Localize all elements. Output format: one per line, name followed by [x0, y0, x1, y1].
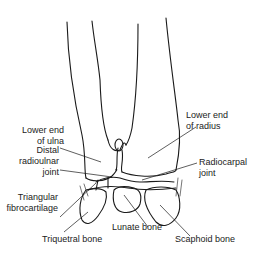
label-line: fibrocartilage	[0, 203, 58, 214]
label-line: Lower end	[186, 110, 228, 121]
label-distal-radioulnar-joint: Distal radioulnar joint	[14, 145, 59, 178]
label-line: Triangular	[0, 192, 58, 203]
label-line: joint	[199, 168, 247, 179]
label-lower-end-radius: Lower end of radius	[186, 110, 228, 132]
wrist-diagram: Lower end of ulna Distal radioulnar join…	[0, 0, 260, 257]
label-line: of radius	[186, 121, 228, 132]
lunate-bone	[113, 187, 140, 213]
label-line: Lower end	[14, 125, 64, 136]
label-line: Radiocarpal	[199, 157, 247, 168]
label-lower-end-ulna: Lower end of ulna	[14, 125, 64, 147]
label-scaphoid-bone: Scaphoid bone	[175, 234, 235, 245]
label-triquetral-bone: Triquetral bone	[42, 234, 102, 245]
label-triangular-fibrocartilage: Triangular fibrocartilage	[0, 192, 58, 214]
leader-lines	[60, 127, 197, 236]
label-line: Distal	[14, 145, 59, 156]
triquetral-bone	[80, 189, 107, 224]
label-radiocarpal-joint: Radiocarpal joint	[199, 157, 247, 179]
radius-outline	[126, 24, 138, 145]
label-line: radioulnar	[14, 156, 59, 167]
ulna-outline	[67, 22, 86, 178]
label-line: joint	[14, 167, 59, 178]
label-lunate-bone: Lunate bone	[112, 222, 162, 233]
